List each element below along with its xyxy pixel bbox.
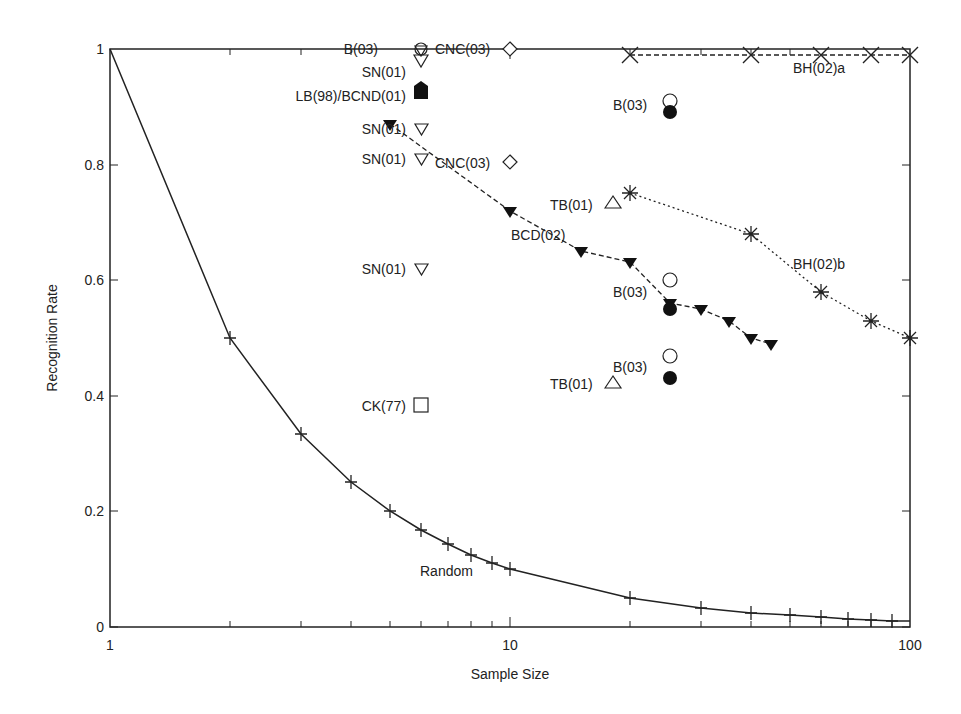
label-b03-3: B(03) [613,359,647,375]
points-b03 [663,94,677,385]
label-sn01-4: SN(01) [362,261,406,277]
y-tick-0.6: 0.6 [85,272,105,288]
y-tick-1: 1 [96,41,104,57]
y-tick-0: 0 [96,619,104,635]
label-sn01-1: SN(01) [362,64,406,80]
marker-cnc03-mid [503,155,517,169]
marker-tb01-2 [605,376,621,388]
series-random [110,49,910,628]
label-sn01-2: SN(01) [362,121,406,137]
y-tick-0.2: 0.2 [85,503,105,519]
label-bh02a: BH(02)a [793,60,845,76]
x-tick-10: 10 [502,637,518,653]
y-axis-label: Recognition Rate [44,284,60,392]
x-tick-100: 100 [898,637,922,653]
label-tb01-1: TB(01) [550,197,593,213]
label-b03-2: B(03) [613,284,647,300]
label-b03-top: B(03) [344,41,378,57]
label-ck77: CK(77) [362,398,406,414]
label-cnc03-top: CNC(03) [435,41,490,57]
label-tb01-2: TB(01) [550,376,593,392]
y-tick-0.4: 0.4 [85,388,105,404]
chart: 0 0.2 0.4 0.6 0.8 1 1 10 100 Sample Size… [0,0,961,714]
y-tick-0.8: 0.8 [85,157,105,173]
x-ticks [230,49,892,627]
label-b03-1: B(03) [613,97,647,113]
marker-lb98 [414,81,428,99]
label-bcd02: BCD(02) [511,227,565,243]
x-tick-1: 1 [106,637,114,653]
label-sn01-3: SN(01) [362,151,406,167]
label-cnc03-mid: CNC(03) [435,155,490,171]
label-random: Random [420,563,473,579]
label-lb98-bcnd01: LB(98)/BCND(01) [296,88,406,104]
series-bh02b [622,185,918,346]
y-ticks [110,165,910,627]
label-bh02b: BH(02)b [793,256,845,272]
x-axis-label: Sample Size [471,666,550,682]
marker-cnc03-top [503,42,517,56]
marker-tb01-1 [605,196,621,208]
